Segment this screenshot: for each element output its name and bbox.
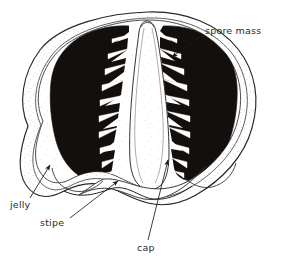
- label-spore-mass: spore mass: [205, 25, 261, 36]
- label-stipe: stipe: [40, 217, 64, 228]
- figure-root: spore mass jelly stipe cap: [0, 0, 292, 266]
- fungus-cross-section-diagram: spore mass jelly stipe cap: [0, 0, 292, 266]
- label-cap: cap: [137, 242, 155, 253]
- label-jelly: jelly: [9, 199, 31, 210]
